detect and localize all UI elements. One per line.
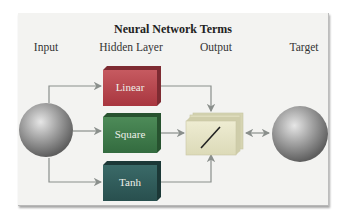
- input-sphere-icon: [19, 103, 73, 157]
- hidden-unit-square-label: Square: [106, 128, 154, 140]
- network-diagram: [0, 0, 345, 219]
- output-unit: [186, 113, 243, 155]
- hidden-unit-linear-label: Linear: [106, 81, 154, 93]
- target-sphere-icon: [272, 106, 328, 162]
- hidden-unit-tanh-label: Tanh: [106, 176, 154, 188]
